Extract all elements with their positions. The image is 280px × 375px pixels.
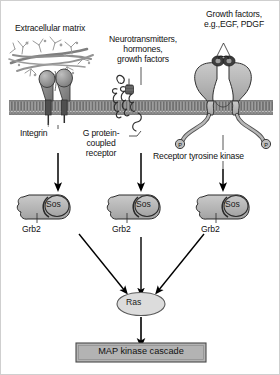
grb2-sos-complex-3 — [196, 195, 249, 223]
label-neurotransmitters: Neurotransmitters, hormones, growth fact… — [94, 34, 192, 65]
integrin-receptor — [39, 69, 73, 127]
svg-text:P: P — [264, 142, 268, 148]
label-ras: Ras — [126, 297, 141, 307]
label-receptor-tyrosine-kinase: Receptor tyrosine kinase — [153, 151, 244, 161]
signaling-pathway-figure: P P — [0, 0, 280, 375]
label-sos-2: Sos — [136, 199, 151, 209]
phosphate-group-right: P — [261, 139, 270, 148]
grb2-sos-complex-2 — [107, 195, 160, 223]
label-growth-factors: Growth factors, e.g.,EGF, PDGF — [187, 9, 280, 29]
grb2-sos-complex-1 — [17, 195, 70, 223]
label-map-kinase-cascade: MAP kinase cascade — [76, 346, 206, 356]
label-sos-1: Sos — [46, 199, 61, 209]
label-grb2-1: Grb2 — [22, 224, 41, 234]
leader-line-gpcr — [129, 131, 141, 136]
label-extracellular-matrix: Extracellular matrix — [15, 23, 85, 33]
phosphate-group-left: P — [175, 139, 184, 148]
label-integrin: Integrin — [20, 128, 47, 138]
label-grb2-2: Grb2 — [112, 224, 131, 234]
svg-text:P: P — [178, 142, 182, 148]
label-gpcr: G protein- coupled receptor — [73, 128, 129, 159]
convergence-arrows — [79, 234, 204, 292]
label-sos-3: Sos — [225, 199, 240, 209]
label-grb2-3: Grb2 — [201, 224, 220, 234]
